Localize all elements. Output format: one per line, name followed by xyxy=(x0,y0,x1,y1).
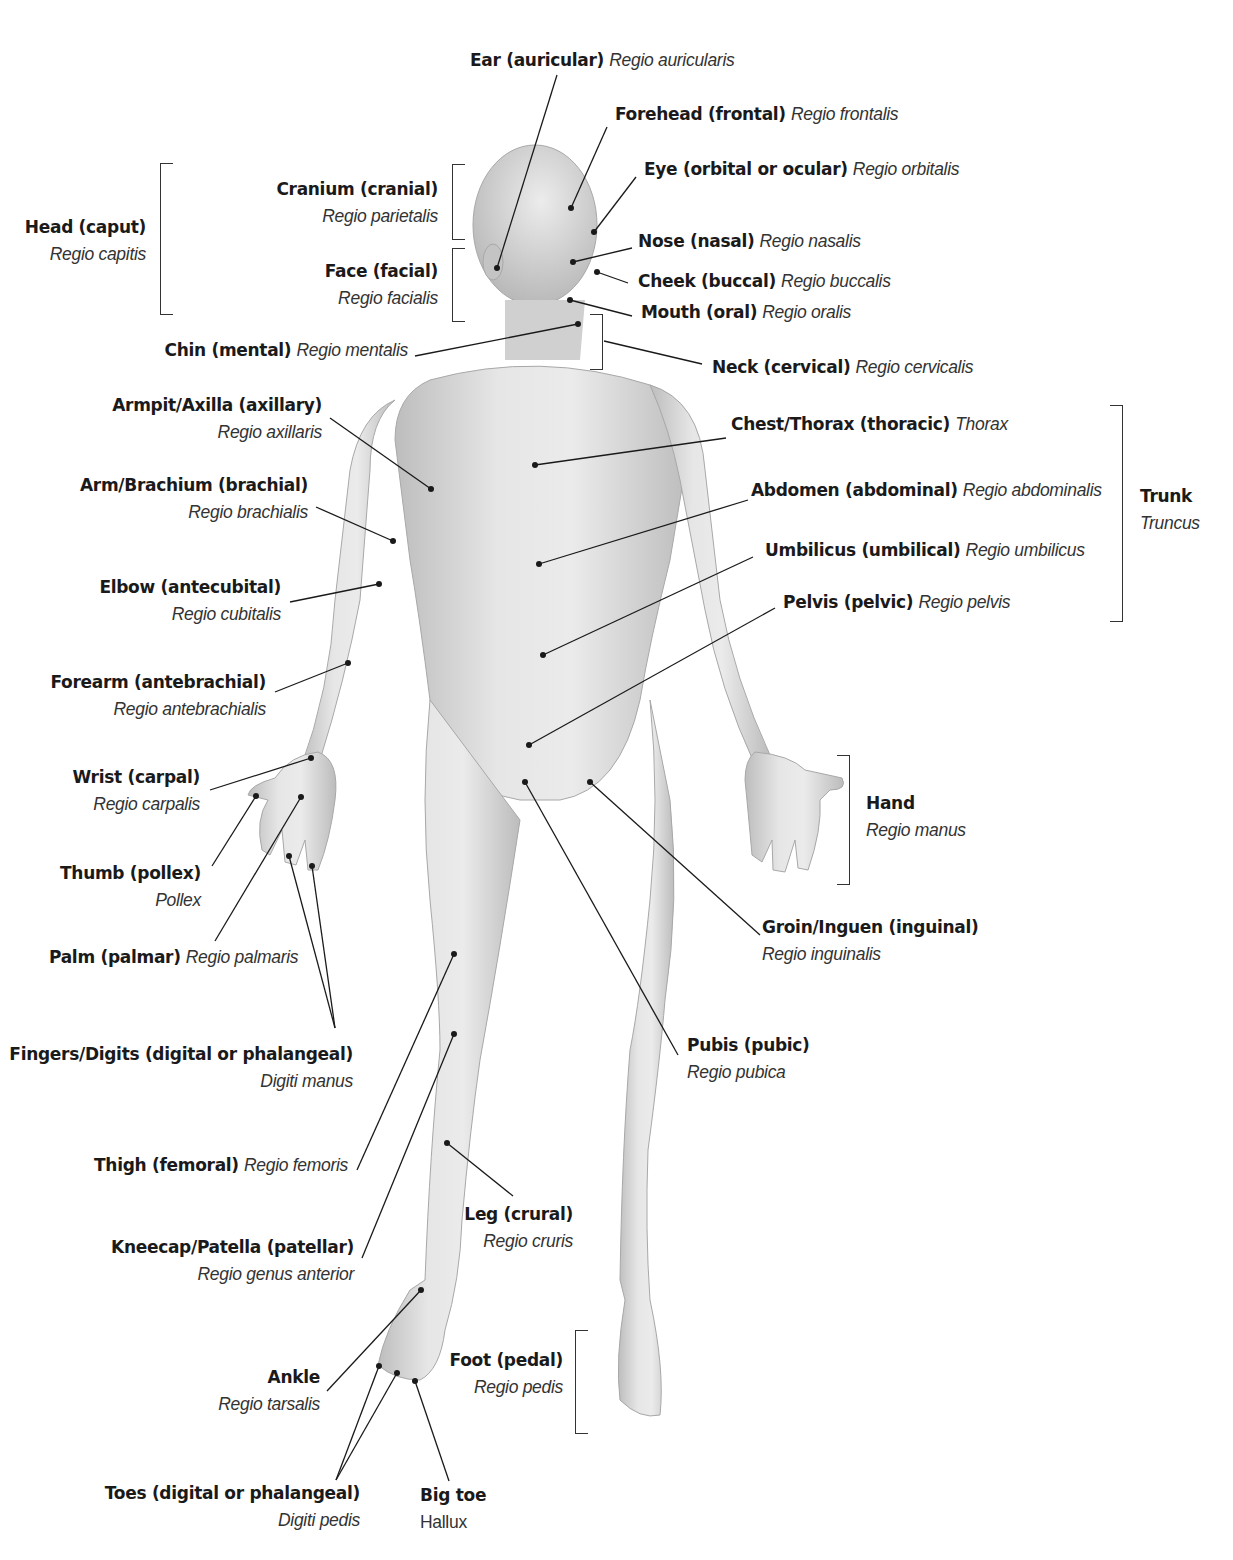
label-thumb: Thumb (pollex)Pollex xyxy=(60,860,201,914)
foot-bracket xyxy=(575,1330,588,1434)
label-fingers: Fingers/Digits (digital or phalangeal)Di… xyxy=(9,1041,353,1095)
label-nose: Nose (nasal) Regio nasalis xyxy=(638,228,861,255)
label-wrist: Wrist (carpal)Regio carpalis xyxy=(72,764,200,818)
label-bigtoe: Big toeHallux xyxy=(420,1482,486,1536)
label-cheek: Cheek (buccal) Regio buccalis xyxy=(638,268,891,295)
label-arm: Arm/Brachium (brachial)Regio brachialis xyxy=(80,472,308,526)
label-pubis: Pubis (pubic)Regio pubica xyxy=(687,1032,810,1086)
label-head: Head (caput)Regio capitis xyxy=(25,214,146,268)
label-kneecap: Kneecap/Patella (patellar)Regio genus an… xyxy=(111,1234,354,1288)
head-bracket xyxy=(160,163,173,315)
trunk-bracket xyxy=(1110,405,1123,622)
label-forehead: Forehead (frontal) Regio frontalis xyxy=(615,101,898,128)
cranium-bracket xyxy=(452,164,465,240)
label-ankle: AnkleRegio tarsalis xyxy=(218,1364,320,1418)
label-cranium: Cranium (cranial)Regio parietalis xyxy=(276,176,438,230)
label-elbow: Elbow (antecubital)Regio cubitalis xyxy=(99,574,281,628)
label-leg: Leg (crural)Regio cruris xyxy=(464,1201,573,1255)
label-hand: HandRegio manus xyxy=(866,790,966,844)
label-toes: Toes (digital or phalangeal)Digiti pedis xyxy=(105,1480,360,1534)
label-chest: Chest/Thorax (thoracic) Thorax xyxy=(731,411,1008,438)
label-face: Face (facial)Regio facialis xyxy=(325,258,438,312)
label-neck: Neck (cervical) Regio cervicalis xyxy=(712,354,973,381)
neck-bracket xyxy=(590,314,603,370)
label-umbilicus: Umbilicus (umbilical) Regio umbilicus xyxy=(765,537,1085,564)
label-chin: Chin (mental) Regio mentalis xyxy=(164,337,408,364)
label-ear: Ear (auricular) Regio auricularis xyxy=(470,47,734,74)
label-armpit: Armpit/Axilla (axillary)Regio axillaris xyxy=(112,392,322,446)
label-palm: Palm (palmar) Regio palmaris xyxy=(49,944,298,971)
label-trunk: TrunkTruncus xyxy=(1140,483,1200,537)
label-groin: Groin/Inguen (inguinal)Regio inguinalis xyxy=(762,914,978,968)
label-eye: Eye (orbital or ocular) Regio orbitalis xyxy=(644,156,959,183)
face-bracket xyxy=(452,248,465,322)
label-forearm: Forearm (antebrachial)Regio antebrachial… xyxy=(50,669,266,723)
label-pelvis: Pelvis (pelvic) Regio pelvis xyxy=(783,589,1010,616)
label-thigh: Thigh (femoral) Regio femoris xyxy=(94,1152,348,1179)
hand-bracket xyxy=(837,755,850,885)
label-abdomen: Abdomen (abdominal) Regio abdominalis xyxy=(751,477,1102,504)
label-mouth: Mouth (oral) Regio oralis xyxy=(641,299,851,326)
label-foot: Foot (pedal)Regio pedis xyxy=(450,1347,563,1401)
